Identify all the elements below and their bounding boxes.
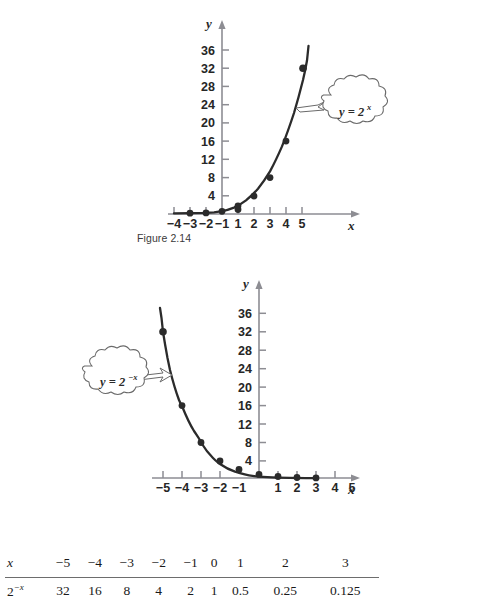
x-axis-title-figure-2: x (347, 482, 355, 497)
table-row-y: 2−x 32 16 8 4 2 1 0.5 0.25 0.125 (5, 578, 379, 605)
cell-y-1: 16 (79, 578, 111, 605)
cell-x-1: −4 (79, 551, 111, 578)
callout-exponent-figure-1: x (366, 102, 372, 112)
svg-text:16: 16 (238, 399, 252, 413)
y-axis-figure-2 (255, 280, 262, 478)
x-tick-labels-figure-2: −5 −4 −3 −2 −1 1 2 3 4 5 (156, 481, 356, 495)
table-row-x: x −5 −4 −3 −2 −1 0 1 2 3 (5, 551, 379, 578)
cell-y-8: 0.125 (312, 578, 379, 605)
callout-figure-1: y = 2 x (296, 75, 388, 124)
svg-text:32: 32 (238, 325, 252, 339)
svg-text:−1: −1 (215, 217, 229, 231)
y-axis-title-figure-2: y (241, 276, 249, 291)
figure-2-15-plot: 36 32 28 24 20 16 12 8 4 −5 −4 −3 −2 (0, 258, 488, 530)
cell-y-0: 32 (47, 578, 79, 605)
svg-text:24: 24 (238, 362, 252, 376)
svg-text:4: 4 (245, 454, 252, 468)
y-ticks-figure-1 (222, 50, 229, 196)
svg-text:4: 4 (283, 217, 290, 231)
values-table: x −5 −4 −3 −2 −1 0 1 2 3 2−x 32 16 8 4 2… (5, 551, 379, 605)
figure-caption-2-14: Figure 2.14 (137, 232, 191, 244)
cell-y-3: 4 (143, 578, 175, 605)
cell-x-2: −3 (111, 551, 143, 578)
cell-x-0: −5 (47, 551, 79, 578)
svg-text:8: 8 (245, 436, 252, 450)
cell-x-6: 1 (222, 551, 259, 578)
svg-text:12: 12 (238, 418, 252, 432)
callout-label-figure-1: y = 2 (337, 105, 364, 119)
svg-text:24: 24 (201, 98, 215, 112)
callout-label-figure-2: y = 2 (98, 375, 125, 389)
svg-text:28: 28 (201, 80, 215, 94)
figure-2-15-block: 36 32 28 24 20 16 12 8 4 −5 −4 −3 −2 (0, 258, 488, 530)
row-header-y-exponent: −x (14, 582, 24, 592)
svg-text:32: 32 (201, 62, 215, 76)
svg-text:−2: −2 (213, 481, 227, 495)
figure-2-14-plot: 36 32 28 24 20 16 12 8 4 −4 −3 −2 −1 (0, 0, 488, 250)
svg-text:−1: −1 (232, 481, 246, 495)
cell-y-4: 2 (175, 578, 207, 605)
svg-text:8: 8 (208, 171, 215, 185)
row-header-x: x (5, 551, 47, 578)
callout-exponent-figure-2: −x (128, 372, 138, 382)
callout-figure-2: y = 2 −x (82, 346, 172, 395)
cell-x-8: 3 (312, 551, 379, 578)
svg-text:1: 1 (275, 481, 282, 495)
x-axis-title-figure-1: x (347, 218, 355, 233)
svg-text:20: 20 (201, 116, 215, 130)
svg-text:36: 36 (238, 307, 252, 321)
figure-2-14-block: 36 32 28 24 20 16 12 8 4 −4 −3 −2 −1 (0, 0, 488, 250)
svg-text:−3: −3 (183, 217, 197, 231)
svg-text:−2: −2 (199, 217, 213, 231)
svg-text:3: 3 (267, 217, 274, 231)
cell-y-7: 0.25 (259, 578, 311, 605)
row-header-y: 2−x (5, 578, 47, 605)
cell-y-5: 1 (207, 578, 222, 605)
svg-text:−4: −4 (167, 217, 181, 231)
svg-text:16: 16 (201, 135, 215, 149)
y-axis-title-figure-1: y (204, 16, 212, 31)
svg-text:−3: −3 (194, 481, 208, 495)
svg-text:1: 1 (235, 217, 242, 231)
values-table-container: x −5 −4 −3 −2 −1 0 1 2 3 2−x 32 16 8 4 2… (5, 551, 379, 605)
y-ticks-figure-2 (259, 313, 266, 461)
svg-text:−5: −5 (156, 481, 170, 495)
svg-text:3: 3 (313, 481, 320, 495)
cell-x-7: 2 (259, 551, 311, 578)
cell-x-4: −1 (175, 551, 207, 578)
y-axis-figure-1 (218, 20, 225, 214)
svg-text:28: 28 (238, 344, 252, 358)
svg-text:2: 2 (251, 217, 258, 231)
cell-x-3: −2 (143, 551, 175, 578)
svg-text:5: 5 (299, 217, 306, 231)
cell-x-5: 0 (207, 551, 222, 578)
svg-text:2: 2 (294, 481, 301, 495)
x-tick-labels-figure-1: −4 −3 −2 −1 1 2 3 4 5 (167, 217, 306, 231)
cell-y-6: 0.5 (222, 578, 259, 605)
svg-text:36: 36 (201, 44, 215, 58)
svg-text:4: 4 (208, 189, 215, 203)
svg-text:12: 12 (201, 153, 215, 167)
svg-text:20: 20 (238, 381, 252, 395)
svg-text:4: 4 (332, 481, 339, 495)
growth-curve (174, 46, 309, 213)
y-tick-labels-figure-1: 36 32 28 24 20 16 12 8 4 (201, 44, 215, 204)
y-tick-labels-figure-2: 36 32 28 24 20 16 12 8 4 (238, 307, 252, 469)
svg-text:−4: −4 (175, 481, 189, 495)
row-header-y-base: 2 (7, 584, 14, 599)
cell-y-2: 8 (111, 578, 143, 605)
